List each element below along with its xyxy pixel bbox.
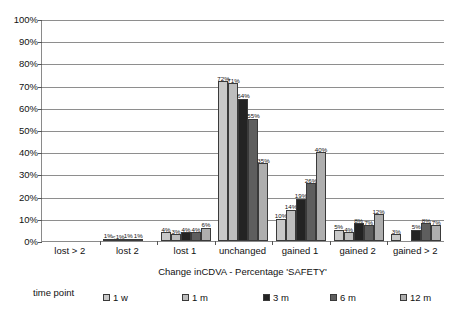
bar: 19% (296, 199, 306, 241)
bar: 1% (123, 239, 133, 241)
x-axis-tick (215, 241, 216, 245)
bar: 14% (286, 210, 296, 241)
bar-value-label: 40% (315, 146, 327, 153)
bar-value-label: 4% (161, 226, 170, 233)
chart-legend: time point 1 w1 m3 m6 m12 m (0, 284, 455, 300)
x-axis-tick (272, 241, 273, 245)
bar-value-label: 7% (364, 219, 373, 226)
bar: 8% (421, 223, 431, 241)
y-tick-label: 90% (19, 37, 38, 47)
bar-value-label: 8% (422, 217, 431, 224)
bar-group-bars (42, 20, 100, 241)
bar-value-label: 7% (432, 219, 441, 226)
bar-value-label: 4% (191, 226, 200, 233)
bar: 7% (364, 225, 374, 241)
bar-group-bars: 72%71%64%55%35% (215, 20, 273, 241)
legend-item-1w[interactable]: 1 w (103, 292, 128, 303)
bar-group: 10%14%19%26%40% (272, 20, 330, 241)
bar-group: 4%3%4%4%6% (157, 20, 215, 241)
bar: 4% (161, 232, 171, 241)
x-category-label: unchanged (219, 246, 266, 256)
legend-swatch-icon (400, 294, 407, 301)
bar-value-label: 4% (344, 226, 353, 233)
bar: 5% (411, 230, 421, 241)
y-axis-tick (38, 242, 42, 243)
x-axis-tick (157, 241, 158, 245)
bar-value-label: 8% (354, 217, 363, 224)
x-category-label: lost > 2 (54, 246, 85, 256)
bar: 35% (258, 163, 268, 241)
safety-bar-chart: 0%10%20%30%40%50%60%70%80%90%100% 1%<1%1… (0, 0, 455, 311)
legend-swatch-icon (263, 294, 270, 301)
bar: 12% (374, 214, 384, 241)
bar-value-label: 3% (392, 228, 401, 235)
bar-group-bars: 10%14%19%26%40% (272, 20, 330, 241)
bar: 7% (431, 225, 441, 241)
y-tick-label: 100% (14, 15, 38, 25)
legend-swatch-icon (103, 294, 110, 301)
bar-group-bars: 3%5%8%7% (387, 20, 445, 241)
bar: 4% (344, 232, 354, 241)
bar: <1% (113, 239, 123, 241)
bar-value-label: 4% (181, 226, 190, 233)
legend-item-1m[interactable]: 1 m (182, 292, 208, 303)
y-tick-label: 0% (24, 237, 38, 247)
bar-value-label: 3% (171, 228, 180, 235)
legend-swatch-icon (330, 294, 337, 301)
y-tick-label: 70% (19, 82, 38, 92)
bar-value-label: 12% (372, 208, 384, 215)
x-axis-tick (100, 241, 101, 245)
legend-label: 3 m (273, 292, 289, 303)
x-axis-tick (330, 241, 331, 245)
x-category-label: gained > 2 (393, 246, 438, 256)
bar: 8% (354, 223, 364, 241)
legend-item-3m[interactable]: 3 m (263, 292, 289, 303)
plot-wrapper: 0%10%20%30%40%50%60%70%80%90%100% 1%<1%1… (0, 0, 455, 258)
legend-item-6m[interactable]: 6 m (330, 292, 356, 303)
bar: 1% (133, 239, 143, 241)
y-tick-label: 20% (19, 193, 38, 203)
bar: 26% (306, 183, 316, 241)
bar-group-bars: 4%3%4%4%6% (157, 20, 215, 241)
y-tick-label: 60% (19, 104, 38, 114)
legend-label: 6 m (340, 292, 356, 303)
bar: 3% (391, 234, 401, 241)
bar-group: 72%71%64%55%35% (215, 20, 273, 241)
bar-value-label: 64% (237, 92, 249, 99)
bar: 5% (334, 230, 344, 241)
y-tick-label: 30% (19, 171, 38, 181)
bar: 72% (218, 81, 228, 241)
bar-group: 1%<1%1%1% (100, 20, 158, 241)
bar-value-label: 35% (257, 157, 269, 164)
legend-title: time point (33, 287, 74, 298)
bar: 3% (171, 234, 181, 241)
bar: 71% (228, 83, 238, 241)
bar: 55% (248, 119, 258, 241)
y-tick-label: 10% (19, 215, 38, 225)
x-category-label: gained 1 (282, 246, 318, 256)
plot-area: 1%<1%1%1%4%3%4%4%6%72%71%64%55%35%10%14%… (41, 20, 444, 242)
bar-value-label: 6% (201, 221, 210, 228)
bar-group: 3%5%8%7% (387, 20, 445, 241)
bar: 10% (276, 219, 286, 241)
legend-label: 1 m (192, 292, 208, 303)
y-tick-label: 50% (19, 126, 38, 136)
y-tick-label: 40% (19, 148, 38, 158)
bar-group: 5%4%8%7%12% (330, 20, 388, 241)
x-category-label: lost 2 (116, 246, 139, 256)
x-category-label: gained 2 (339, 246, 375, 256)
y-tick-label: 80% (19, 60, 38, 70)
x-category-label: lost 1 (174, 246, 197, 256)
bar: 64% (238, 99, 248, 241)
legend-item-12m[interactable]: 12 m (400, 292, 431, 303)
x-axis-tick (387, 241, 388, 245)
legend-label: 1 w (113, 292, 128, 303)
legend-swatch-icon (182, 294, 189, 301)
bar-value-label: 5% (412, 223, 421, 230)
bar: 4% (181, 232, 191, 241)
bar-group-bars: 1%<1%1%1% (100, 20, 158, 241)
bar: 4% (191, 232, 201, 241)
bar-value-label: 5% (334, 223, 343, 230)
bar-group (42, 20, 100, 241)
bar-group-bars: 5%4%8%7%12% (330, 20, 388, 241)
